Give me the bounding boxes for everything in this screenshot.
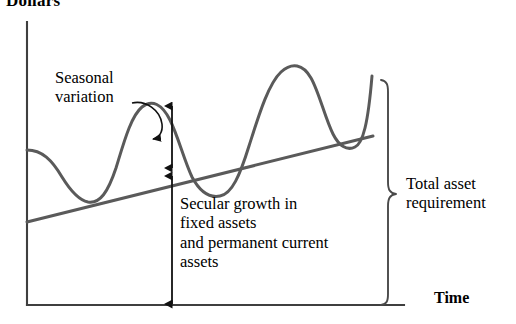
secular-growth-label: Secular growth in fixed assets and perma… [180, 194, 328, 272]
y-axis-label: Dollars [6, 0, 60, 11]
total-asset-requirement-label: Total asset requirement [406, 174, 486, 213]
seasonal-variation-label: Seasonal variation [55, 68, 114, 107]
total-asset-brace [381, 80, 396, 305]
x-axis-label: Time [434, 289, 469, 308]
figure-container: Dollars Time Seasonal variation Secular … [0, 0, 516, 324]
diagram-canvas [0, 0, 516, 324]
seasonal-leader-arrow [132, 102, 162, 139]
